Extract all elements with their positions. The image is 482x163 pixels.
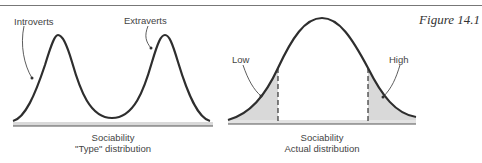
left-baseline-shade bbox=[13, 122, 213, 126]
left-caption-line2: "Type" distribution bbox=[53, 143, 173, 154]
right-caption-line2: Actual distribution bbox=[262, 143, 382, 154]
low-label: Low bbox=[232, 54, 249, 65]
right-caption: Sociability Actual distribution bbox=[262, 132, 382, 154]
low-tail-shade bbox=[228, 68, 278, 124]
left-caption-line1: Sociability bbox=[53, 132, 173, 143]
low-pointer bbox=[243, 65, 261, 96]
introverts-label: Introverts bbox=[14, 16, 54, 27]
extraverts-label: Extraverts bbox=[124, 15, 167, 26]
high-pointer bbox=[383, 65, 400, 97]
bimodal-curve bbox=[13, 35, 210, 121]
high-label: High bbox=[389, 54, 409, 65]
introverts-pointer bbox=[22, 26, 32, 78]
extraverts-pointer bbox=[146, 26, 151, 48]
right-caption-line1: Sociability bbox=[262, 132, 382, 143]
right-baseline-shade bbox=[228, 120, 416, 124]
left-caption: Sociability "Type" distribution bbox=[53, 132, 173, 154]
